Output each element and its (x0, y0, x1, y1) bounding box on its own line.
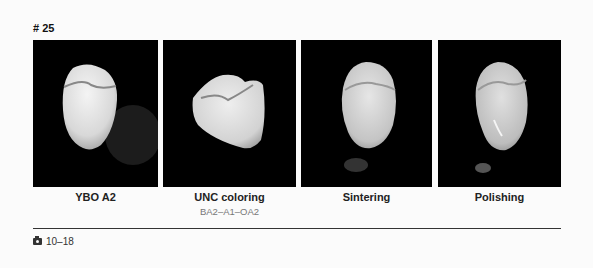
figure-number: # 25 (33, 22, 54, 34)
divider-rule (33, 228, 561, 229)
camera-icon (33, 238, 42, 245)
tooth-image (33, 40, 158, 187)
tooth-image (163, 40, 296, 187)
photo-reference-number: 10–18 (46, 236, 74, 247)
tooth-image (438, 40, 561, 187)
caption-polishing: Polishing (438, 191, 561, 203)
caption-ybo-a2: YBO A2 (33, 191, 158, 203)
photo-polishing (438, 40, 561, 187)
photo-sintering (301, 40, 432, 187)
caption-unc-coloring: UNC coloring (163, 191, 296, 203)
photo-ybo-a2 (33, 40, 158, 187)
caption-sintering: Sintering (301, 191, 432, 203)
tooth-image (301, 40, 432, 187)
photo-reference: 10–18 (33, 236, 74, 247)
subcaption-shade-sequence: BA2–A1–OA2 (163, 206, 296, 217)
photo-unc-coloring (163, 40, 296, 187)
